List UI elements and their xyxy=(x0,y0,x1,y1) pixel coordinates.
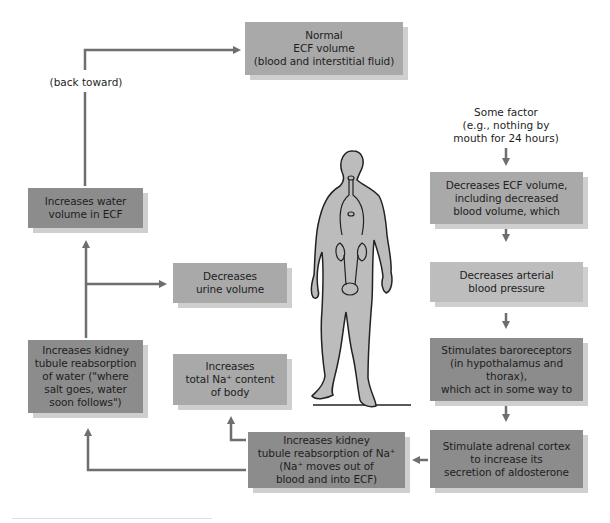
back-toward-label: (back toward) xyxy=(38,76,134,89)
human-figure-illustration xyxy=(311,151,411,407)
decreases-blood-pressure-box: Decreases arterial blood pressure xyxy=(430,262,583,302)
stimulate-adrenal-cortex-box: Stimulate adrenal cortex to increase its… xyxy=(430,430,583,488)
increases-water-volume-box: Increases water volume in ECF xyxy=(28,188,143,228)
decreases-ecf-volume-box: Decreases ECF volume, including decrease… xyxy=(430,172,583,224)
increases-total-na-box: Increases total Na⁺ content of body xyxy=(173,354,287,405)
increases-na-reabsorption-box: Increases kidney tubule reabsorption of … xyxy=(248,432,405,488)
decreases-urine-volume-box: Decreases urine volume xyxy=(173,263,287,303)
stimulates-baroreceptors-box: Stimulates baroreceptors (in hypothalamu… xyxy=(430,338,583,401)
arrow-to-normal-ecf xyxy=(85,50,237,70)
divider xyxy=(12,518,212,519)
some-factor-label: Some factor (e.g., nothing by mouth for … xyxy=(446,106,566,145)
normal-ecf-volume-box: Normal ECF volume (blood and interstitia… xyxy=(245,22,403,75)
increases-water-reabsorption-box: Increases kidney tubule reabsorption of … xyxy=(28,340,143,413)
